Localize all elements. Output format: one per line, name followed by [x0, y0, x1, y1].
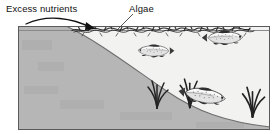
label-algae: Algae	[129, 4, 154, 14]
eutrophication-diagram	[0, 0, 276, 134]
label-excess-nutrients: Excess nutrients	[6, 4, 77, 14]
